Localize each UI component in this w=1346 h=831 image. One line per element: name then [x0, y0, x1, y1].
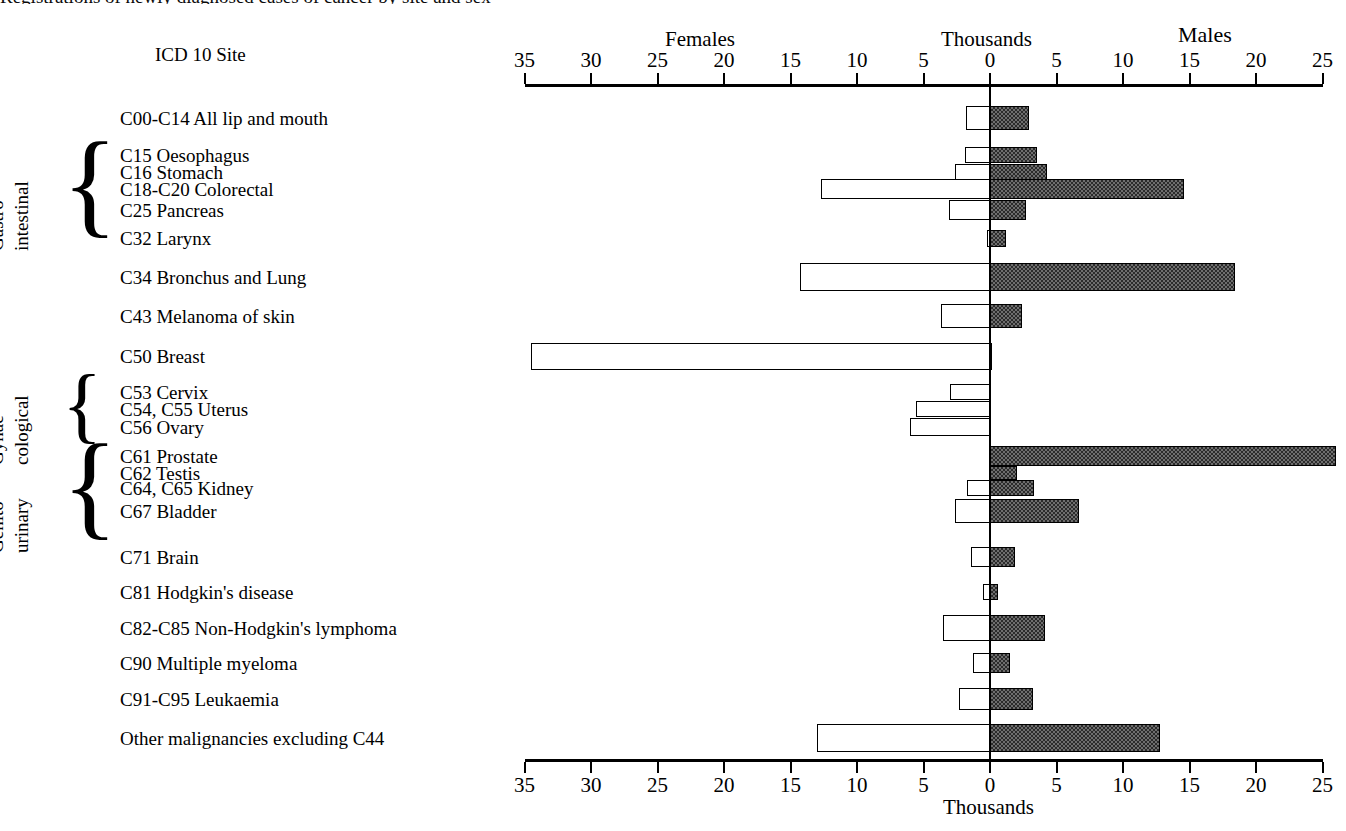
category-label: C67 Bladder — [120, 502, 217, 521]
axis-tick — [1255, 73, 1257, 84]
axis-tick — [856, 762, 858, 773]
bar-male — [990, 263, 1235, 291]
bar-female — [973, 653, 990, 673]
axis-tick — [790, 73, 792, 84]
bar-female — [531, 343, 990, 370]
group-label-line1: Genito- — [0, 495, 8, 553]
axis-tick — [1322, 762, 1324, 773]
axis-tick — [1122, 73, 1124, 84]
bar-male — [990, 724, 1160, 752]
axis-tick-label: 15 — [1168, 48, 1212, 73]
bar-male — [990, 200, 1026, 220]
axis-tick — [1189, 762, 1191, 773]
bar-female — [971, 547, 990, 567]
axis-tick — [1322, 73, 1324, 84]
bar-female — [955, 164, 990, 180]
axis-tick-label: 25 — [1301, 773, 1345, 798]
axis-tick-label: 5 — [902, 48, 946, 73]
axis-tick-label: 30 — [569, 48, 613, 73]
category-label: C00-C14 All lip and mouth — [120, 109, 328, 128]
axis-tick-label: 5 — [1035, 48, 1079, 73]
bar-female — [949, 200, 990, 220]
bar-male — [990, 179, 1184, 199]
units-label-top: Thousands — [941, 27, 1032, 52]
row-column-header: ICD 10 Site — [155, 44, 246, 66]
bar-male — [990, 164, 1047, 180]
bar-female — [910, 418, 990, 436]
axis-tick-label: 35 — [503, 48, 547, 73]
bar-female — [817, 724, 990, 752]
bar-male — [990, 499, 1079, 523]
bar-male — [990, 106, 1029, 130]
females-panel-label: Females — [665, 27, 735, 52]
group-brace: { — [62, 125, 118, 241]
axis-tick — [657, 73, 659, 84]
category-label: C64, C65 Kidney — [120, 479, 254, 498]
axis-tick-label: 15 — [769, 773, 813, 798]
chart-figure: Registrations of newly diagnosed cases o… — [0, 0, 1346, 831]
category-label: C34 Bronchus and Lung — [120, 268, 306, 287]
axis-line — [525, 84, 1323, 87]
axis-tick-label: 10 — [835, 48, 879, 73]
bar-female — [967, 480, 990, 496]
group-label-line2: cological — [11, 395, 33, 465]
category-label: Other malignancies excluding C44 — [120, 729, 384, 748]
units-label-bottom: Thousands — [943, 795, 1034, 820]
axis-tick — [1056, 73, 1058, 84]
axis-tick — [590, 762, 592, 773]
males-panel-label: Males — [1178, 22, 1232, 48]
axis-tick-label: 10 — [1101, 773, 1145, 798]
axis-tick — [524, 762, 526, 773]
axis-tick-label: 5 — [1035, 773, 1079, 798]
axis-tick — [723, 762, 725, 773]
axis-tick — [524, 73, 526, 84]
axis-tick — [790, 762, 792, 773]
axis-tick — [657, 762, 659, 773]
bar-female — [950, 384, 990, 400]
axis-tick — [989, 73, 991, 84]
bar-male — [990, 584, 998, 600]
category-label: C43 Melanoma of skin — [120, 307, 295, 326]
category-label: C90 Multiple myeloma — [120, 654, 297, 673]
axis-tick-label: 10 — [835, 773, 879, 798]
axis-tick-label: 20 — [1234, 773, 1278, 798]
axis-tick-label: 20 — [702, 773, 746, 798]
axis-tick-label: 5 — [902, 773, 946, 798]
category-label: C82-C85 Non-Hodgkin's lymphoma — [120, 619, 397, 638]
category-label: C32 Larynx — [120, 229, 211, 248]
axis-tick — [989, 762, 991, 773]
axis-tick — [1255, 762, 1257, 773]
axis-tick-label: 15 — [1168, 773, 1212, 798]
axis-tick — [923, 762, 925, 773]
bar-male — [990, 653, 1010, 673]
bar-female — [943, 615, 990, 641]
bar-male — [990, 230, 1006, 247]
bar-female — [821, 179, 990, 199]
group-label-line1: Gastro- — [0, 194, 8, 251]
axis-tick-label: 20 — [1234, 48, 1278, 73]
bar-female — [966, 106, 990, 130]
bar-male — [990, 304, 1022, 328]
category-label: C25 Pancreas — [120, 201, 224, 220]
axis-tick-label: 25 — [636, 773, 680, 798]
category-label: C50 Breast — [120, 347, 205, 366]
zero-axis-line — [989, 87, 991, 759]
axis-tick — [923, 73, 925, 84]
category-label: C81 Hodgkin's disease — [120, 583, 293, 602]
axis-tick-label: 35 — [503, 773, 547, 798]
bar-male — [990, 446, 1336, 466]
axis-tick-label: 25 — [1301, 48, 1345, 73]
group-label-line2: intestinal — [11, 181, 33, 251]
bar-female — [941, 304, 990, 328]
bar-male — [990, 466, 1017, 480]
category-label: C71 Brain — [120, 548, 199, 567]
category-label: C18-C20 Colorectal — [120, 180, 274, 199]
bar-female — [959, 688, 990, 710]
group-label-line2: urinary — [11, 498, 33, 553]
category-label: C56 Ovary — [120, 418, 204, 437]
axis-tick — [1122, 762, 1124, 773]
axis-tick — [590, 73, 592, 84]
bar-male — [990, 688, 1033, 710]
group-label-line1: Gynae- — [0, 409, 8, 465]
bar-male — [990, 615, 1045, 641]
